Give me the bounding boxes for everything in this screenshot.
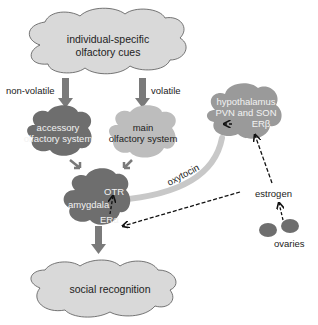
accessory-to-amygdala-arrow	[70, 160, 80, 168]
cues-label: individual-specific olfactory cues	[58, 33, 158, 59]
cues-line2: olfactory cues	[58, 46, 158, 59]
er-alpha-label: ERα	[100, 214, 119, 225]
hypothalamus-line1: hypothalamus	[206, 96, 286, 107]
ovaries-to-estrogen-arrow	[279, 203, 283, 220]
ovary-left	[259, 223, 277, 237]
ovaries-label: ovaries	[274, 238, 305, 249]
ovary-right	[281, 219, 299, 233]
otr-label: OTR	[104, 186, 124, 197]
non-volatile-arrow	[58, 78, 73, 108]
social-recognition-label: social recognition	[60, 284, 160, 295]
volatile-arrow	[135, 78, 150, 108]
accessory-line1: accessory	[20, 122, 96, 133]
amygdala-label: amygdala	[68, 199, 109, 210]
main-line1: main	[105, 122, 181, 133]
diagram-canvas	[0, 0, 318, 325]
accessory-line2: olfactory system	[20, 133, 96, 144]
main-to-amygdala-arrow	[124, 160, 132, 168]
volatile-label: volatile	[151, 85, 181, 96]
main-line2: olfactory system	[105, 133, 181, 144]
amygdala-to-social-arrow	[91, 226, 106, 254]
cues-line1: individual-specific	[58, 33, 158, 46]
main-label: main olfactory system	[105, 122, 181, 144]
er-beta-label: ERβ	[206, 118, 286, 129]
hypothalamus-label: hypothalamus PVN and SON ERβ	[206, 96, 286, 129]
accessory-label: accessory olfactory system	[20, 122, 96, 144]
hypothalamus-line2: PVN and SON	[206, 107, 286, 118]
estrogen-label: estrogen	[255, 188, 292, 199]
non-volatile-label: non-volatile	[6, 85, 55, 96]
estrogen-to-hypothalamus-arrow	[255, 135, 272, 183]
